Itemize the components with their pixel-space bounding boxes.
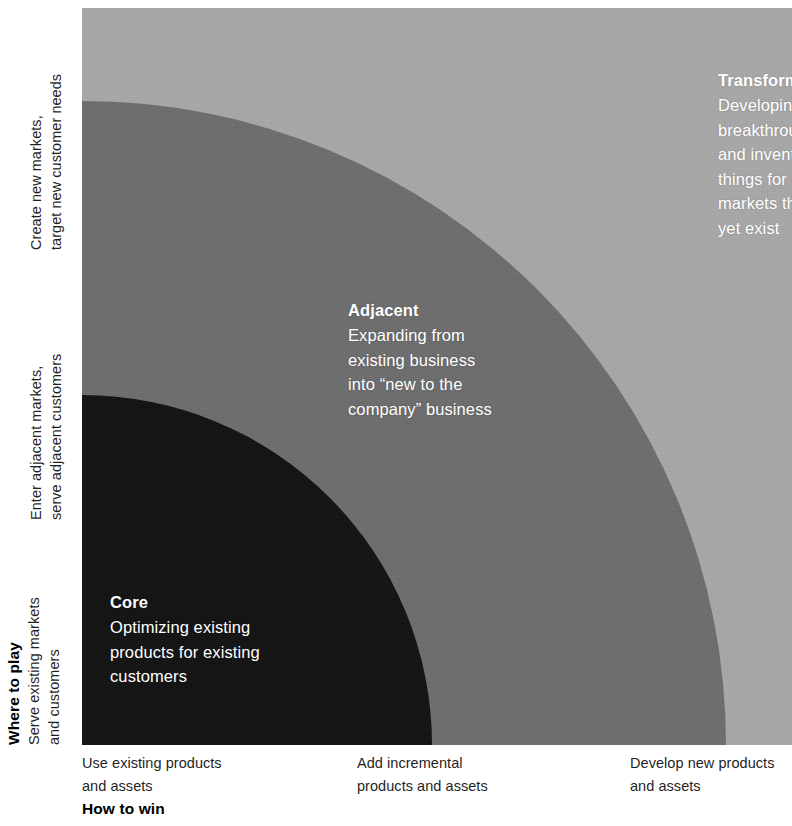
zone-body-core: Optimizing existing products for existin… [110, 615, 260, 689]
zone-body-line: products for existing [110, 640, 260, 665]
zone-body-line: existing business [348, 348, 492, 373]
zone-body-line: Developing breakthroughs [718, 93, 792, 142]
x-axis-col-adjacent: Add incremental products and assets [357, 752, 607, 798]
y-axis-tier-transformational-line2: target new customer needs [46, 74, 66, 250]
x-axis-col-transformational: Develop new products and assets [630, 752, 792, 798]
innovation-ambition-matrix: Where to play Serve existing markets and… [0, 0, 792, 826]
zone-body-line: company” business [348, 397, 492, 422]
zone-body-line: markets that don’t yet exist [718, 191, 792, 240]
y-axis-tier-adjacent-line1: Enter adjacent markets, [26, 354, 46, 520]
x-axis-col-adjacent-line2: products and assets [357, 775, 607, 798]
y-axis: Where to play Serve existing markets and… [0, 0, 82, 745]
zone-title-core: Core [110, 590, 260, 615]
matrix-plot-area: Transformational Developing breakthrough… [82, 8, 792, 745]
zone-body-adjacent: Expanding from existing business into “n… [348, 323, 492, 421]
y-axis-title: Where to play [5, 642, 22, 745]
zone-body-line: customers [110, 664, 260, 689]
zone-body-line: Optimizing existing [110, 615, 260, 640]
zone-label-adjacent: Adjacent Expanding from existing busines… [348, 298, 492, 421]
y-axis-tier-core-line2: and customers [44, 597, 64, 745]
zone-body-transformational: Developing breakthroughs and inventing t… [718, 93, 792, 240]
x-axis: Use existing products and assets Add inc… [82, 752, 792, 826]
zone-label-transformational: Transformational Developing breakthrough… [718, 68, 792, 240]
y-axis-tier-adjacent: Enter adjacent markets, serve adjacent c… [0, 250, 82, 520]
y-axis-tier-adjacent-line2: serve adjacent customers [46, 354, 66, 520]
zone-title-adjacent: Adjacent [348, 298, 492, 323]
zone-body-line: and inventing things for [718, 142, 792, 191]
x-axis-col-core-line1: Use existing products [82, 752, 332, 775]
y-axis-tier-transformational: Create new markets, target new customer … [0, 0, 82, 250]
x-axis-title: How to win [82, 800, 165, 818]
x-axis-col-core-line2: and assets [82, 775, 332, 798]
x-axis-col-adjacent-line1: Add incremental [357, 752, 607, 775]
zone-title-transformational: Transformational [718, 68, 792, 93]
x-axis-col-transformational-line1: Develop new products [630, 752, 792, 775]
zone-body-line: Expanding from [348, 323, 492, 348]
zone-body-line: into “new to the [348, 372, 492, 397]
x-axis-col-transformational-line2: and assets [630, 775, 792, 798]
x-axis-col-core: Use existing products and assets [82, 752, 332, 798]
y-axis-tier-core-line1: Serve existing markets [24, 597, 44, 745]
zone-label-core: Core Optimizing existing products for ex… [110, 590, 260, 689]
y-axis-tier-transformational-line1: Create new markets, [26, 74, 46, 250]
